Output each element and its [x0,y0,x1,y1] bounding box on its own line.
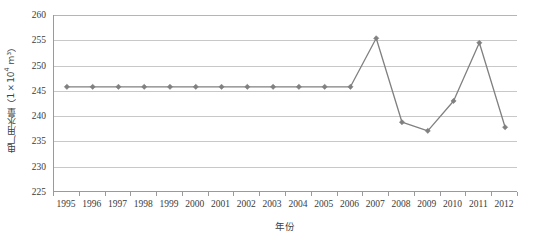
x-axis-tick-label: 2001 [211,198,230,210]
data-point-marker [193,84,198,89]
y-axis-tick-label: 255 [32,35,46,45]
data-point-marker [503,125,508,130]
x-axis-tick-label: 1995 [56,198,75,210]
data-point-marker [219,84,224,89]
x-axis-tick-label: 2005 [314,198,333,210]
y-axis-title-text: 电厂用水量（1×104 m³） [2,43,17,153]
data-point-marker [90,84,95,89]
series-line [67,38,505,131]
data-point-marker [348,84,353,89]
data-point-marker [477,40,482,45]
data-point-marker [116,84,121,89]
x-axis-tick-label: 1997 [108,198,127,210]
x-axis-tick-mark [105,192,106,196]
x-axis-tick-label: 2004 [288,198,307,210]
x-axis-tick-label: 2008 [392,198,411,210]
data-point-marker [322,84,327,89]
x-axis-tick-mark [465,192,466,196]
data-point-marker [399,120,404,125]
data-point-marker [271,84,276,89]
data-point-marker [64,84,69,89]
y-axis-tick-labels: 225230235240245250255260 [18,0,50,196]
x-axis-tick-label: 2011 [469,198,488,210]
x-axis-tick-label: 1999 [160,198,179,210]
data-point-marker [245,84,250,89]
x-axis-tick-mark [79,192,80,196]
x-axis-tick-label: 2012 [495,198,514,210]
x-axis-tick-label: 2010 [443,198,462,210]
x-axis-tick-mark [182,192,183,196]
x-axis-tick-label: 2007 [366,198,385,210]
x-axis-tick-mark [388,192,389,196]
plot-area [53,15,517,192]
x-axis-tick-mark [440,192,441,196]
x-axis-tick-label: 2000 [185,198,204,210]
data-series [54,15,518,192]
y-axis-tick-label: 245 [32,86,46,96]
x-axis-tick-mark [233,192,234,196]
x-axis-tick-label: 2003 [263,198,282,210]
x-axis-tick-label: 2009 [417,198,436,210]
y-axis-tick-label: 230 [32,162,46,172]
x-axis-tick-mark [491,192,492,196]
data-point-marker [296,84,301,89]
y-axis-tick-label: 235 [32,136,46,146]
x-axis-tick-mark [259,192,260,196]
x-axis-tick-mark [156,192,157,196]
x-axis-tick-marks [53,192,517,197]
x-axis-tick-mark [130,192,131,196]
data-point-marker [142,84,147,89]
x-axis-title: 年份 [53,219,517,233]
x-axis-tick-mark [53,192,54,196]
line-chart: 电厂用水量（1×104 m³） 225230235240245250255260… [0,0,538,243]
x-axis-tick-mark [414,192,415,196]
x-axis-tick-label: 2002 [237,198,256,210]
y-axis-tick-label: 250 [32,61,46,71]
x-axis-tick-labels: 1995199619971998199920002001200220032004… [53,198,517,212]
y-axis-tick-label: 225 [32,187,46,197]
x-axis-tick-mark [285,192,286,196]
y-axis-tick-label: 260 [32,10,46,20]
y-axis-tick-label: 240 [32,111,46,121]
x-axis-tick-mark [311,192,312,196]
y-axis-title: 电厂用水量（1×104 m³） [0,0,18,196]
x-axis-tick-mark [517,192,518,196]
x-axis-tick-mark [362,192,363,196]
x-axis-tick-label: 1998 [134,198,153,210]
x-axis-tick-label: 2006 [340,198,359,210]
x-axis-tick-mark [337,192,338,196]
data-point-marker [374,36,379,41]
x-axis-tick-label: 1996 [82,198,101,210]
data-point-marker [167,84,172,89]
x-axis-tick-mark [208,192,209,196]
